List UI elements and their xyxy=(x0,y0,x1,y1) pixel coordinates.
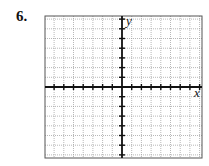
x-axis-label: x xyxy=(193,85,200,100)
axes xyxy=(45,16,202,158)
y-axis-label: y xyxy=(124,13,132,28)
coordinate-grid: x y xyxy=(0,0,209,166)
